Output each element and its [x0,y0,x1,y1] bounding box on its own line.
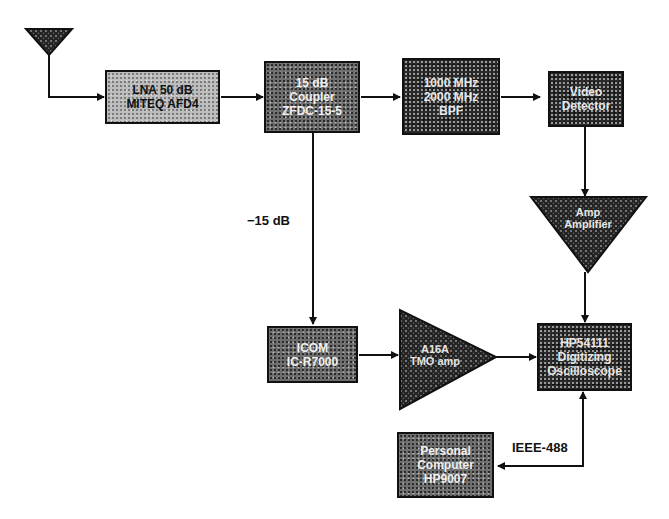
bpf-line-2: 2000 MHz [424,90,479,104]
lna-line-1: LNA 50 dB [132,83,192,97]
oscilloscope-block: HP54111 Digitizing Oscilloscope [537,323,632,391]
coupler-line-2: Coupler [289,90,334,104]
oscilloscope-line-1: HP54111 [560,336,609,350]
antenna-icon [26,29,72,55]
coupler-line-1: 15 dB [296,76,329,90]
icom-receiver-block: ICOM IC-R7000 [267,326,358,383]
pc-line-3: HP9007 [424,472,467,486]
oscilloscope-line-3: Oscilloscope [547,364,622,378]
ieee-488-label: IEEE-488 [512,440,568,455]
video-detector-line-2: Detector [562,99,611,113]
bpf-block: 1000 MHz 2000 MHz BPF [402,58,500,135]
amplifier-line-1: Amp [548,206,628,218]
icom-line-1: ICOM [297,341,328,355]
video-detector-line-1: Video [570,85,602,99]
pc-line-1: Personal [420,444,471,458]
lna-line-2: MITEQ AFD4 [126,97,198,111]
pc-line-2: Computer [417,458,474,472]
if-amplifier-label: A16A TMO amp [402,343,468,367]
amplifier-line-2: Amplifier [548,218,628,230]
if-amplifier-line-2: TMO amp [402,355,468,367]
coupler-block: 15 dB Coupler ZFDC-15-5 [264,61,360,133]
coupled-port-label: −15 dB [247,213,290,228]
personal-computer-block: Personal Computer HP9007 [397,432,494,498]
video-detector-block: Video Detector [548,71,624,127]
oscilloscope-line-2: Digitizing [558,350,612,364]
lna-block: LNA 50 dB MITEQ AFD4 [105,70,220,124]
icom-line-2: IC-R7000 [287,355,338,369]
coupler-line-3: ZFDC-15-5 [282,104,342,118]
amplifier-label: Amp Amplifier [548,206,628,230]
bpf-line-3: BPF [439,104,463,118]
bpf-line-1: 1000 MHz [424,76,479,90]
if-amplifier-line-1: A16A [402,343,468,355]
